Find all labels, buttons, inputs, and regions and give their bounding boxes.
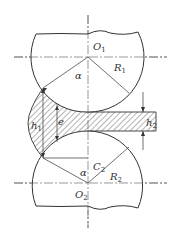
label-e: e <box>58 116 64 127</box>
rolling-diagram: O1 R1 α h1 e h2 C2 α R2 O2 <box>0 0 176 240</box>
label-alpha-bottom: α <box>80 167 87 178</box>
label-alpha-top: α <box>75 70 82 81</box>
